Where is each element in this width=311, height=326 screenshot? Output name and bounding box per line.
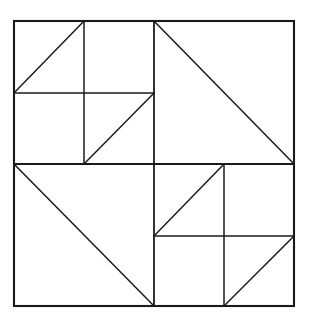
- bottomright-upper-diagonal: [154, 164, 224, 236]
- shape-layer: [14, 21, 294, 306]
- bottomright-lower-diagonal: [224, 236, 294, 306]
- geometric-figure: [0, 0, 311, 326]
- bottomleft-diagonal: [14, 164, 154, 306]
- topleft-upper-diagonal: [14, 21, 84, 93]
- topright-diagonal: [154, 21, 294, 164]
- figure-container: [0, 0, 311, 326]
- topleft-lower-diagonal: [84, 93, 154, 164]
